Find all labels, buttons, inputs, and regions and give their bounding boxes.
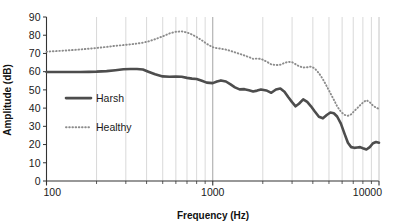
chart-canvas: 0102030405060708090 100100010000 HarshHe… [0, 0, 397, 224]
y-axis-tick-labels: 0102030405060708090 [29, 11, 41, 187]
spectrum-chart: 0102030405060708090 100100010000 HarshHe… [0, 0, 397, 224]
grid-lines [97, 17, 372, 181]
y-tick-label-30: 30 [29, 120, 41, 132]
y-tick-label-0: 0 [35, 175, 41, 187]
legend-label-healthy: Healthy [96, 121, 132, 133]
x-tick-label-100: 100 [44, 186, 62, 198]
legend-label-harsh: Harsh [96, 92, 124, 104]
x-tick-label-10000: 10000 [353, 186, 382, 198]
y-tick-label-60: 60 [29, 65, 41, 77]
x-axis-title: Frequency (Hz) [177, 210, 249, 221]
x-tick-label-1000: 1000 [201, 186, 225, 198]
y-tick-label-40: 40 [29, 102, 41, 114]
y-tick-label-70: 70 [29, 47, 41, 59]
chart-legend: HarshHealthy [66, 92, 132, 133]
y-tick-label-90: 90 [29, 11, 41, 23]
chart-axes [43, 17, 379, 186]
y-tick-label-20: 20 [29, 138, 41, 150]
y-tick-label-80: 80 [29, 29, 41, 41]
x-axis-tick-labels: 100100010000 [44, 186, 383, 198]
y-tick-label-50: 50 [29, 84, 41, 96]
y-tick-label-10: 10 [29, 157, 41, 169]
y-axis-title: Amplitude (dB) [2, 64, 13, 136]
